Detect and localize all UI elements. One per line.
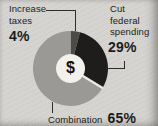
leader-line-cut-horizontal (106, 68, 125, 69)
label-cut-line2: federal (110, 15, 149, 27)
leader-line-increase-vertical (75, 10, 76, 31)
label-increase-taxes: Increase taxes 4% (9, 3, 46, 43)
label-increase-line2: taxes (9, 15, 46, 27)
leader-line-increase-horizontal (46, 10, 76, 11)
dollar-icon: $ (62, 59, 79, 76)
poll-donut-chart-panel: $ Increase taxes 4% Cut federal spending… (0, 0, 158, 126)
label-cut-line1: Cut (110, 3, 149, 15)
label-combination: Combination 65% (48, 111, 136, 126)
value-cut-federal-spending: 29% (108, 40, 149, 54)
label-combination-text: Combination (48, 114, 102, 126)
value-increase-taxes: 4% (9, 29, 46, 43)
leader-line-cut-vertical (124, 61, 125, 69)
value-combination: 65% (107, 111, 136, 125)
label-increase-line1: Increase (9, 3, 46, 15)
label-cut-line3: spending (110, 26, 149, 38)
label-cut-federal-spending: Cut federal spending 29% (110, 3, 149, 54)
